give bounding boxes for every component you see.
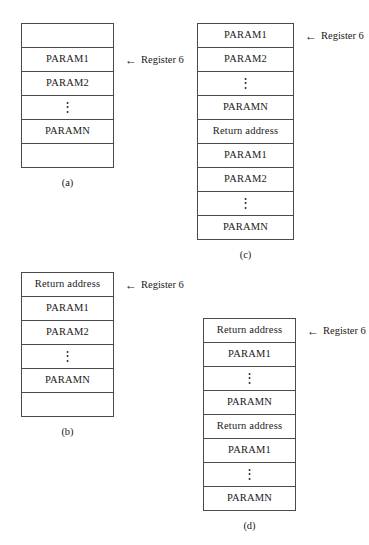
register-label: Register 6 [321,31,364,42]
stack-figure-b: Return addressPARAM1PARAM2⋮PARAMN←Regist… [21,272,114,417]
vertical-ellipsis-icon: ⋮ [61,349,74,362]
stack-row: PARAMN [204,391,295,415]
stack-figure-a: PARAM1PARAM2⋮PARAMN←Register 6(a) [21,23,114,168]
left-arrow-icon: ← [307,325,319,337]
register-label: Register 6 [323,326,366,337]
stack-row: Return address [204,319,295,343]
register-callout-c: ←Register 6 [305,30,364,42]
diagram-canvas: PARAM1PARAM2⋮PARAMN←Register 6(a)Return … [0,0,369,545]
stack-row: PARAM1 [198,24,293,48]
figure-caption-c: (c) [197,250,294,261]
stack-row: PARAMN [198,216,293,240]
register-label: Register 6 [141,280,184,291]
stack-figure-d: Return addressPARAM1⋮PARAMNReturn addres… [203,318,296,511]
vertical-ellipsis-icon: ⋮ [61,100,74,113]
stack-row: PARAM1 [198,144,293,168]
stack-row: PARAM2 [22,321,113,345]
register-callout-b: ←Register 6 [125,279,184,291]
stack-row: PARAM1 [204,343,295,367]
stack-row: ⋮ [22,96,113,120]
stack-row: Return address [22,273,113,297]
left-arrow-icon: ← [305,30,317,42]
stack-row: ⋮ [198,192,293,216]
vertical-ellipsis-icon: ⋮ [239,196,252,209]
stack-row: PARAMN [22,120,113,144]
stack-row: PARAM1 [22,297,113,321]
figure-caption-b: (b) [21,427,114,438]
stack-row [22,393,113,417]
stack-d: Return addressPARAM1⋮PARAMNReturn addres… [203,318,296,511]
stack-c: PARAM1PARAM2⋮PARAMNReturn addressPARAM1P… [197,23,294,240]
stack-b: Return addressPARAM1PARAM2⋮PARAMN [21,272,114,417]
left-arrow-icon: ← [125,54,137,66]
figure-caption-d: (d) [203,521,296,532]
stack-row: PARAM2 [198,168,293,192]
stack-row: Return address [198,120,293,144]
left-arrow-icon: ← [125,279,137,291]
stack-figure-c: PARAM1PARAM2⋮PARAMNReturn addressPARAM1P… [197,23,294,240]
stack-row: ⋮ [198,72,293,96]
vertical-ellipsis-icon: ⋮ [243,467,256,480]
stack-row: ⋮ [204,367,295,391]
figure-caption-a: (a) [21,178,114,189]
stack-row: PARAM2 [198,48,293,72]
stack-row: Return address [204,415,295,439]
vertical-ellipsis-icon: ⋮ [243,371,256,384]
stack-row: PARAM2 [22,72,113,96]
stack-row: PARAMN [22,369,113,393]
vertical-ellipsis-icon: ⋮ [239,76,252,89]
register-callout-a: ←Register 6 [125,54,184,66]
stack-row: ⋮ [22,345,113,369]
stack-row [22,24,113,48]
register-label: Register 6 [141,55,184,66]
stack-row [22,144,113,168]
stack-a: PARAM1PARAM2⋮PARAMN [21,23,114,168]
stack-row: ⋮ [204,463,295,487]
stack-row: PARAM1 [22,48,113,72]
stack-row: PARAM1 [204,439,295,463]
register-callout-d: ←Register 6 [307,325,366,337]
stack-row: PARAMN [204,487,295,511]
stack-row: PARAMN [198,96,293,120]
